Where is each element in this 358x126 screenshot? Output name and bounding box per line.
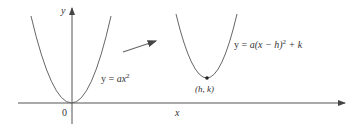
translation-arrow bbox=[123, 41, 156, 52]
base-equation-label: y = ax2 bbox=[101, 72, 130, 84]
diagram-canvas: y 0 x y = ax2 y = a(x − h)2 + k (h, k) bbox=[0, 0, 358, 126]
vertex-label: (h, k) bbox=[195, 84, 214, 94]
y-axis-label: y bbox=[60, 5, 66, 16]
base-parabola-curve bbox=[31, 16, 111, 103]
vertex-point bbox=[205, 76, 209, 80]
shifted-equation-label: y = a(x − h)2 + k bbox=[234, 38, 303, 51]
origin-label: 0 bbox=[62, 107, 67, 118]
shifted-parabola-curve bbox=[176, 14, 237, 78]
parabola-translation-diagram: y 0 x y = ax2 y = a(x − h)2 + k (h, k) bbox=[0, 0, 358, 126]
x-axis-label: x bbox=[174, 107, 180, 118]
